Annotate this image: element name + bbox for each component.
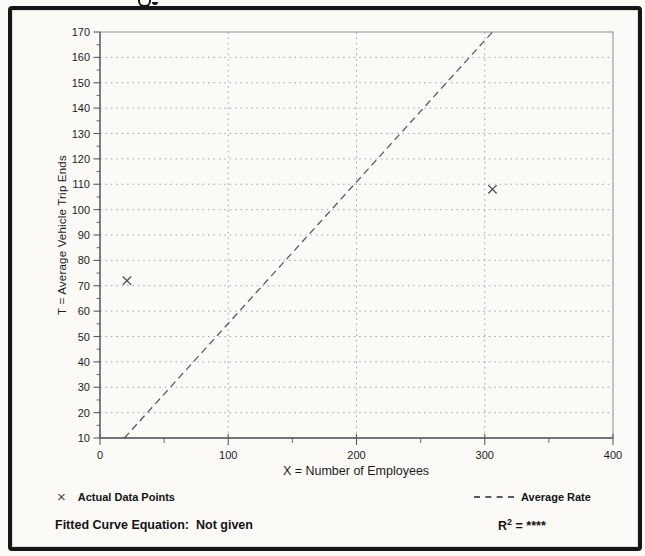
y-tick-label: 40 (78, 356, 90, 368)
legend-actual-data-points-label: Actual Data Points (78, 491, 175, 503)
r-squared-rest: = **** (512, 519, 546, 533)
r-squared-base: R (498, 519, 507, 533)
y-tick-label: 70 (78, 280, 90, 292)
legend-average-rate: Average Rate (474, 491, 591, 503)
trend-line-average-rate (124, 32, 492, 438)
x-axis-title: X = Number of Employees (283, 464, 429, 478)
y-tick-label: 110 (72, 178, 90, 190)
y-tick-label: 20 (78, 407, 90, 419)
legend-actual-data-points: × Actual Data Points (57, 491, 175, 503)
y-tick-label: 60 (78, 305, 90, 317)
y-tick-label: 80 (78, 254, 90, 266)
y-tick-label: 170 (72, 26, 90, 38)
x-tick-label: 400 (604, 449, 622, 461)
r-squared-value: R2 = **** (498, 517, 546, 533)
y-tick-label: 140 (72, 102, 90, 114)
y-tick-label: 100 (72, 204, 90, 216)
data-point-marker (123, 276, 131, 284)
data-point-marker (488, 185, 496, 193)
x-tick-label: 0 (97, 449, 103, 461)
axis-ticks (94, 32, 614, 445)
scatter-plot: 1020304050607080901001101201301401501601… (0, 0, 645, 490)
scanned-figure-page: 1020304050607080901001101201301401501601… (0, 0, 645, 556)
dashed-line-icon (474, 496, 514, 498)
y-tick-label: 130 (72, 128, 90, 140)
y-tick-label: 90 (78, 229, 90, 241)
x-tick-label: 300 (476, 449, 494, 461)
y-axis-title: T = Average Vehicle Trip Ends (56, 155, 68, 315)
x-marker-icon: × (57, 491, 66, 503)
legend-average-rate-label: Average Rate (521, 491, 591, 503)
y-tick-label: 120 (72, 153, 90, 165)
fitted-curve-equation: Fitted Curve Equation: Not given (55, 518, 253, 532)
x-tick-label: 100 (219, 449, 237, 461)
tick-labels: 1020304050607080901001101201301401501601… (72, 26, 623, 461)
gridlines (100, 32, 613, 438)
y-tick-label: 30 (78, 381, 90, 393)
y-tick-label: 10 (78, 432, 90, 444)
x-tick-label: 200 (347, 449, 365, 461)
y-tick-label: 160 (72, 51, 90, 63)
y-tick-label: 150 (72, 77, 90, 89)
y-tick-label: 50 (78, 331, 90, 343)
